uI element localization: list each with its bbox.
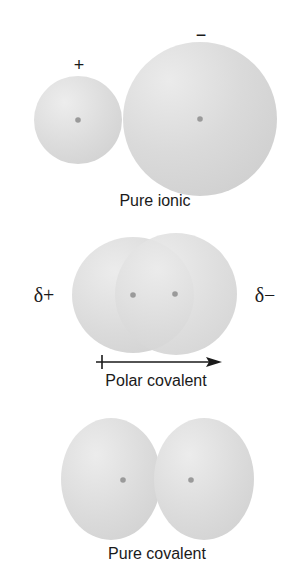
covalent-left-nucleus	[120, 477, 126, 483]
pure-ionic-panel	[34, 42, 277, 196]
covalent-right-lobe	[154, 418, 254, 540]
covalent-left-lobe	[61, 418, 161, 540]
covalent-right-nucleus	[188, 477, 194, 483]
partial-positive-label: δ+	[34, 285, 55, 305]
pure-covalent-caption: Pure covalent	[108, 546, 206, 562]
anion-charge-label: −	[196, 26, 207, 44]
anion-nucleus	[197, 116, 203, 122]
pure-covalent-panel	[61, 418, 254, 540]
polar-covalent-panel	[72, 233, 237, 369]
partial-negative-label: δ−	[255, 285, 276, 305]
polar-left-nucleus	[130, 292, 136, 298]
cation-nucleus	[75, 117, 81, 123]
polar-right-nucleus	[172, 291, 178, 297]
cation-charge-label: +	[74, 56, 85, 74]
bonding-spectrum-diagram: + − Pure ionic δ+ δ− Polar covalent Pure…	[0, 0, 297, 574]
polar-covalent-caption: Polar covalent	[105, 373, 206, 389]
dipole-arrow-icon	[96, 355, 222, 369]
pure-ionic-caption: Pure ionic	[119, 193, 190, 209]
